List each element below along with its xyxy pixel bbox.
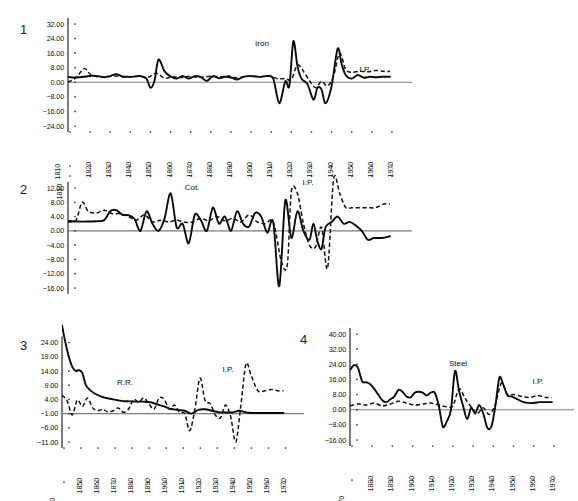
panel-2-tick-dot [74, 201, 76, 203]
panel-4-ytick-label: 16.00 [329, 375, 346, 384]
panel-4-xtick-label: 1910 [427, 476, 436, 492]
panel-2-plot: 12.008.004.000.00−4.00−8.00−12.00−16.001… [0, 160, 420, 320]
panel-1-tick-dot [74, 81, 76, 83]
panel-4-ytick-label: −8.00 [329, 420, 347, 429]
panel-3-ytick-label: −6.00 [41, 423, 59, 432]
panel-1-ytick-label: 0.00 [51, 78, 65, 87]
panel-4-xtick-label: 1880 [366, 476, 375, 492]
panel-1-ytick-label: 16.00 [47, 49, 64, 58]
panel-1-tick-dot [170, 131, 172, 133]
panel-3-xtick-label: 1850 [75, 478, 84, 494]
panel-2-tick-dot [74, 216, 76, 218]
panel-2-tick-dot [69, 175, 71, 177]
panel-1-tick-dot [130, 131, 132, 133]
panel-4-tick-dot [553, 445, 555, 447]
panel-1-tick-dot [270, 131, 272, 133]
panel-2-tick-dot [170, 175, 172, 177]
panel-1-ytick-label: −16.00 [43, 107, 64, 116]
panel-1-ytick-label: −24.00 [43, 122, 64, 131]
panel-4-tick-dot [452, 445, 454, 447]
panel-2: 2 12.008.004.000.00−4.00−8.00−12.00−16.0… [0, 160, 420, 320]
panel-3-tick-dot [80, 447, 82, 449]
panel-2-tick-dot [311, 175, 313, 177]
panel-3-xtick-label: 1900 [160, 478, 169, 494]
panel-2-tick-dot [74, 187, 76, 189]
panel-3-tick-dot [97, 447, 99, 449]
panel-1-tick-dot [74, 96, 76, 98]
panel-4-ytick-label: 40.00 [329, 330, 346, 339]
panel-1-tick-dot [109, 131, 111, 133]
panel-4-tick-dot [412, 445, 414, 447]
panel-4-series-label: Steel [449, 359, 467, 368]
panel-3-series-label: R.R. [117, 378, 133, 387]
panel-4-tick-dot [472, 445, 474, 447]
panel-3-tick-dot [148, 447, 150, 449]
panel-4-tick-dot [356, 439, 358, 441]
panel-2-ytick-label: −16.00 [43, 284, 64, 293]
panel-2-tick-dot [74, 259, 76, 261]
panel-4-tick-dot [356, 394, 358, 396]
panel-3-ytick-label: 9.00 [45, 381, 59, 390]
panel-3-tick-dot [285, 447, 287, 449]
panel-3-tick-dot [199, 447, 201, 449]
panel-3-series-ip [62, 363, 283, 442]
panel-1-tick-dot [89, 131, 91, 133]
panel-3-tick-dot [131, 447, 133, 449]
panel-3-tick-dot [68, 342, 70, 344]
panel-1-number: 1 [20, 22, 27, 37]
panel-1-plot: 32.0024.0016.008.000.00−8.00−16.00−24.00… [0, 6, 420, 166]
panel-4-tick-dot [356, 333, 358, 335]
panel-2-ytick-label: −4.00 [47, 241, 65, 250]
panel-3-tick-dot [68, 399, 70, 401]
panel-4-tick-dot [351, 445, 353, 447]
panel-4-xtick-label: 1920 [447, 476, 456, 492]
panel-4-tick-dot [533, 445, 535, 447]
figure-four-panel-chart: 1 32.0024.0016.008.000.00−8.00−16.00−24.… [0, 0, 578, 501]
panel-1-ytick-label: 8.00 [51, 63, 65, 72]
panel-4-ytick-label: 8.00 [333, 390, 347, 399]
panel-4-ytick-label: 0.00 [333, 405, 347, 414]
panel-1-series-label: I.P. [360, 65, 371, 74]
panel-4-xtick-label: 1900 [407, 476, 416, 492]
panel-4-tick-dot [351, 479, 353, 481]
panel-4-tick-dot [492, 445, 494, 447]
panel-3-tick-dot [165, 447, 167, 449]
panel-1-tick-dot [74, 23, 76, 25]
panel-2-tick-dot [89, 175, 91, 177]
panel-3-tick-dot [63, 447, 65, 449]
panel-2-tick-dot [150, 175, 152, 177]
panel-4-xtick-label: 1940 [487, 476, 496, 492]
panel-3-ytick-label: −11.00 [37, 438, 58, 447]
panel-3-tick-dot [68, 413, 70, 415]
panel-3-xtick-label: 1890 [143, 478, 152, 494]
panel-3-tick-dot [68, 427, 70, 429]
panel-2-origin-label: 1810 [55, 184, 64, 200]
panel-4-ytick-label: 32.00 [329, 345, 346, 354]
panel-3-xtick-label: 1950 [245, 478, 254, 494]
panel-1-tick-dot [74, 52, 76, 54]
panel-3-ytick-label: 19.00 [41, 352, 58, 361]
panel-1-tick-dot [290, 131, 292, 133]
panel-3-tick-dot [68, 384, 70, 386]
panel-3-series-rr [62, 325, 283, 413]
panel-3-xtick-label: 1870 [109, 478, 118, 494]
panel-2-tick-dot [391, 175, 393, 177]
panel-1-tick-dot [230, 131, 232, 133]
panel-3-xtick-label: 1880 [126, 478, 135, 494]
panel-1-tick-dot [74, 38, 76, 40]
panel-2-tick-dot [250, 175, 252, 177]
panel-1-tick-dot [150, 131, 152, 133]
panel-2-ytick-label: 4.00 [51, 212, 65, 221]
panel-4-origin-label: 1870 [337, 496, 346, 501]
panel-1-tick-dot [190, 131, 192, 133]
panel-2-tick-dot [109, 175, 111, 177]
panel-3-tick-dot [114, 447, 116, 449]
panel-4-tick-dot [356, 379, 358, 381]
panel-1: 1 32.0024.0016.008.000.00−8.00−16.00−24.… [0, 6, 420, 166]
panel-1-tick-dot [69, 131, 71, 133]
panel-1-tick-dot [74, 125, 76, 127]
panel-4-plot: 40.0032.0024.0016.008.000.00−8.00−16.001… [290, 322, 578, 501]
panel-3-xtick-label: 1960 [262, 478, 271, 494]
panel-3-xtick-label: 1930 [211, 478, 220, 494]
panel-1-ytick-label: −8.00 [47, 92, 65, 101]
